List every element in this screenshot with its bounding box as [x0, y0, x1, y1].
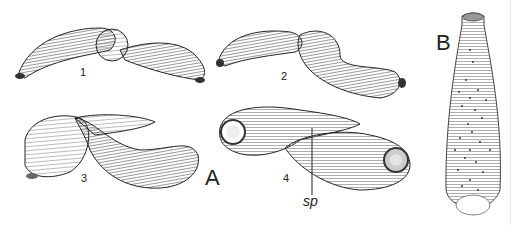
leech-pair-3 [25, 115, 198, 188]
sp-annotation: sp [303, 193, 318, 209]
leech-pair-4 [220, 107, 410, 195]
subfigure-label-1: 1 [80, 66, 86, 78]
leech-pair-2 [216, 31, 406, 98]
leech-dorsal-view-b [446, 13, 501, 215]
leech-pair-1 [15, 28, 205, 83]
page-edge-divider [510, 0, 511, 225]
panel-label-a: A [205, 165, 220, 191]
panel-label-b: B [436, 30, 451, 56]
subfigure-label-2: 2 [281, 70, 287, 82]
subfigure-label-4: 4 [283, 172, 289, 184]
subfigure-label-3: 3 [81, 172, 87, 184]
